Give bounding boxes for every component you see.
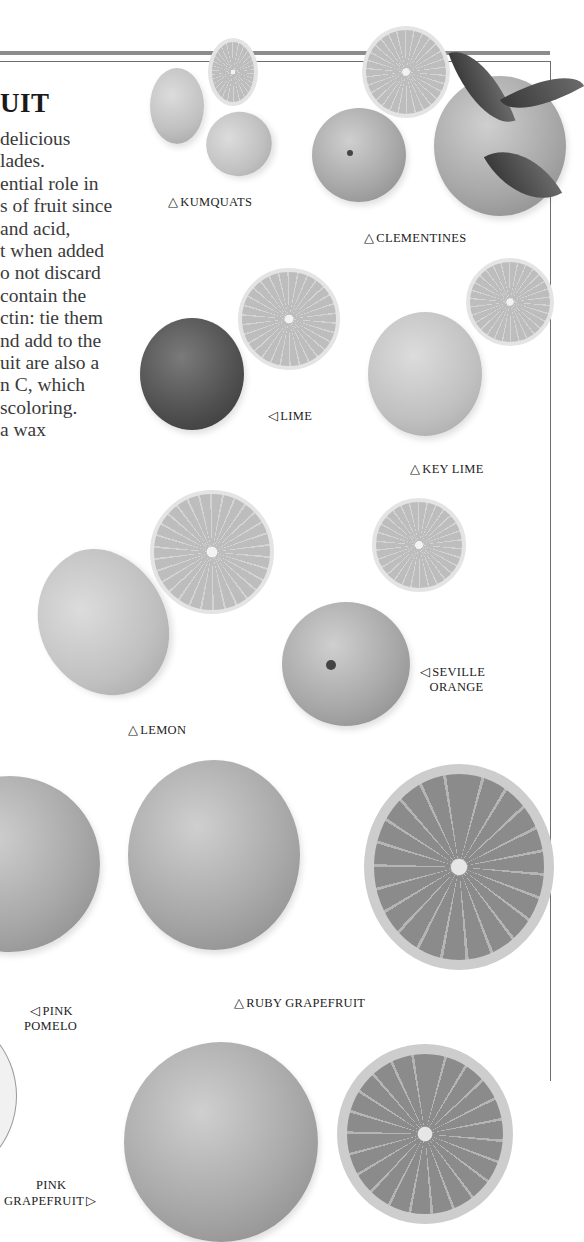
up-triangle-icon: △	[128, 722, 138, 737]
label-seville-orange: ◁SEVILLE ORANGE	[418, 664, 485, 695]
kumquat-half-image	[208, 38, 258, 106]
body-line: nd add to the	[0, 330, 112, 352]
pink-grapefruit-image	[124, 1042, 318, 1242]
label-kumquats: △KUMQUATS	[166, 194, 252, 210]
body-line: uit are also a	[0, 352, 112, 374]
label-pink-pomelo: ◁PINK POMELO	[24, 1003, 77, 1034]
left-triangle-icon: ◁	[420, 664, 430, 679]
body-line: scoloring.	[0, 397, 112, 419]
seville-orange-image	[282, 602, 410, 726]
ruby-grapefruit-image	[128, 760, 300, 950]
body-line: s of fruit since	[0, 195, 112, 217]
left-triangle-icon: ◁	[268, 408, 278, 423]
right-border-rule	[550, 61, 551, 1081]
label-key-lime: △KEY LIME	[408, 461, 484, 477]
label-lime: ◁LIME	[266, 408, 312, 424]
up-triangle-icon: △	[364, 230, 374, 245]
body-line: t when added	[0, 240, 112, 262]
clementine-image	[312, 108, 406, 202]
pink-pomelo-slice-image	[0, 1010, 17, 1182]
lime-image	[140, 318, 244, 430]
body-line: a wax	[0, 419, 112, 441]
body-line: and acid,	[0, 218, 112, 240]
seville-orange-slice-image	[372, 498, 466, 592]
label-lemon: △LEMON	[126, 722, 186, 738]
seville-stem	[326, 660, 336, 670]
body-line: n C, which	[0, 374, 112, 396]
body-paragraph: delicious lades. ential role in s of fru…	[0, 128, 112, 442]
lime-slice-image	[238, 268, 340, 370]
kumquat-image	[196, 101, 283, 187]
kumquat-image	[150, 68, 204, 144]
clementine-slice-image	[362, 26, 450, 118]
body-line: ential role in	[0, 173, 112, 195]
right-triangle-icon: ▷	[86, 1193, 96, 1208]
up-triangle-icon: △	[410, 461, 420, 476]
pink-pomelo-image	[0, 776, 100, 952]
up-triangle-icon: △	[234, 995, 244, 1010]
up-triangle-icon: △	[168, 194, 178, 209]
left-triangle-icon: ◁	[30, 1003, 40, 1018]
section-heading: UIT	[0, 88, 50, 119]
clementine-stem	[347, 150, 353, 156]
lemon-slice-image	[150, 490, 274, 614]
label-pink-grapefruit: PINK GRAPEFRUIT▷	[4, 1178, 98, 1209]
body-line: lades.	[0, 150, 112, 172]
key-lime-image	[368, 312, 482, 436]
body-line: ctin: tie them	[0, 307, 112, 329]
pink-grapefruit-slice-image	[337, 1044, 513, 1224]
key-lime-slice-image	[466, 258, 554, 346]
body-line: delicious	[0, 128, 112, 150]
ruby-grapefruit-slice-image	[364, 764, 554, 970]
label-clementines: △CLEMENTINES	[362, 230, 466, 246]
label-ruby-grapefruit: △RUBY GRAPEFRUIT	[232, 995, 365, 1011]
body-line: o not discard	[0, 262, 112, 284]
body-line: contain the	[0, 285, 112, 307]
